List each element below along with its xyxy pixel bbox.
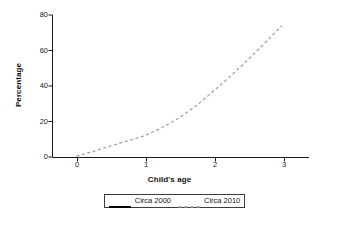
legend-swatch-dashed xyxy=(178,197,200,205)
chart-legend: Circa 2000 Circa 2010 xyxy=(104,194,245,208)
legend-swatch-solid xyxy=(109,197,131,205)
plot-area xyxy=(0,0,339,225)
legend-item-circa-2010: Circa 2010 xyxy=(178,195,240,207)
x-axis-ticks xyxy=(78,158,285,162)
chart-figure: Percentage 80 60 40 20 0 0 1 2 3 Child's… xyxy=(0,0,339,225)
legend-label: Circa 2010 xyxy=(204,197,240,205)
series-line-circa-2010 xyxy=(76,26,281,156)
legend-item-circa-2000: Circa 2000 xyxy=(109,195,171,207)
legend-label: Circa 2000 xyxy=(135,197,171,205)
y-axis-ticks xyxy=(49,15,53,157)
